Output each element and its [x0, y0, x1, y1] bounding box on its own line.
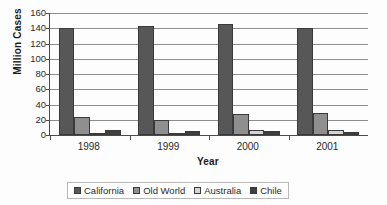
y-axis-tick-label: 140 [30, 24, 46, 34]
bar-california-2001 [297, 28, 313, 136]
bar-group-inner [218, 24, 280, 135]
y-axis-tick-label: 120 [30, 39, 46, 49]
legend-swatch-icon [250, 187, 257, 194]
bar-california-2000 [218, 24, 234, 135]
bar-group [130, 13, 210, 135]
legend-label: Chile [260, 185, 282, 196]
bar-australia-2000 [249, 130, 265, 135]
x-axis-tick-mark [130, 135, 131, 140]
y-axis-tick-label: 80 [35, 69, 46, 79]
bar-old-world-1999 [154, 120, 170, 135]
y-axis-tick-label: 60 [35, 85, 46, 95]
bar-australia-2001 [328, 130, 344, 135]
bar-groups [50, 13, 368, 135]
bar-australia-1998 [90, 133, 106, 135]
bar-group [289, 13, 369, 135]
x-axis-title: Year [49, 156, 367, 167]
bar-old-world-2000 [233, 114, 249, 135]
legend-label: Old World [143, 185, 185, 196]
bar-chile-2000 [264, 131, 280, 135]
y-axis-title: Million Cases [12, 0, 23, 97]
legend-item-california[interactable]: California [74, 185, 124, 196]
x-axis-tick-mark [289, 135, 290, 140]
legend-swatch-icon [133, 187, 140, 194]
y-axis-tick-label: 0 [41, 130, 46, 140]
bar-group-inner [59, 28, 121, 136]
x-axis-tick-mark [209, 135, 210, 140]
bar-group [209, 13, 289, 135]
y-axis-tick-label: 20 [35, 115, 46, 125]
bar-chile-1999 [185, 131, 201, 135]
y-axis-tick-label: 160 [30, 8, 46, 18]
x-axis-tick-labels: 1998199920002001 [49, 141, 367, 152]
bar-old-world-2001 [313, 113, 329, 135]
bar-old-world-1998 [74, 117, 90, 135]
legend-item-australia[interactable]: Australia [194, 185, 241, 196]
plot-area: 020406080100120140160 [49, 13, 368, 136]
x-axis-tick-label: 2000 [208, 141, 288, 152]
x-axis-tick-mark [50, 135, 51, 140]
x-axis-tick-label: 1998 [49, 141, 129, 152]
legend-item-old-world[interactable]: Old World [133, 185, 185, 196]
x-axis-tick-label: 1999 [129, 141, 209, 152]
x-axis-tick-label: 2001 [288, 141, 368, 152]
bar-chart-screenshot: Million Cases 020406080100120140160 1998… [0, 0, 387, 205]
bar-group [50, 13, 130, 135]
legend-label: California [84, 185, 124, 196]
y-axis-tick-label: 100 [30, 54, 46, 64]
y-axis-tick-label: 40 [35, 100, 46, 110]
legend-swatch-icon [194, 187, 201, 194]
bar-california-1999 [138, 26, 154, 135]
chart-legend: CaliforniaOld WorldAustraliaChile [67, 182, 289, 199]
legend-item-chile[interactable]: Chile [250, 185, 282, 196]
bar-group-inner [138, 26, 200, 135]
bar-australia-1999 [169, 133, 185, 135]
bar-chile-1998 [105, 130, 121, 135]
bar-group-inner [297, 28, 359, 136]
bar-california-1998 [59, 28, 75, 136]
bar-chile-2001 [344, 132, 360, 135]
legend-swatch-icon [74, 187, 81, 194]
legend-label: Australia [204, 185, 241, 196]
